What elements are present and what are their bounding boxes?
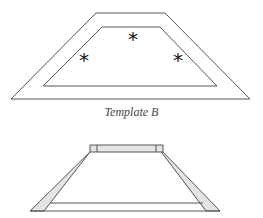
asterisk-marker-left: * <box>79 48 89 72</box>
frame-left-bar <box>30 145 97 211</box>
asterisk-marker-top: * <box>128 27 138 51</box>
template-caption: Template B <box>0 105 263 120</box>
template-b-shape <box>11 13 250 99</box>
asterisk-marker-right: * <box>173 48 183 72</box>
frame-right-bar <box>156 145 220 211</box>
frame-top-bar <box>90 145 163 152</box>
frame-assembly <box>30 145 220 211</box>
